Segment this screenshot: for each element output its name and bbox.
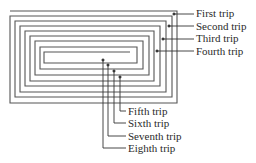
label-first-trip: First trip [196,7,234,19]
label-fourth-trip: Fourth trip [196,45,243,57]
right-leaders [156,13,194,52]
label-sixth-trip: Sixth trip [128,117,169,129]
label-fifth-trip: Fifth trip [128,105,167,117]
label-seventh-trip: Seventh trip [128,130,181,142]
label-eighth-trip: Eighth trip [128,142,175,154]
spiral-path [10,11,177,103]
label-second-trip: Second trip [196,20,246,32]
label-third-trip: Third trip [196,32,238,44]
